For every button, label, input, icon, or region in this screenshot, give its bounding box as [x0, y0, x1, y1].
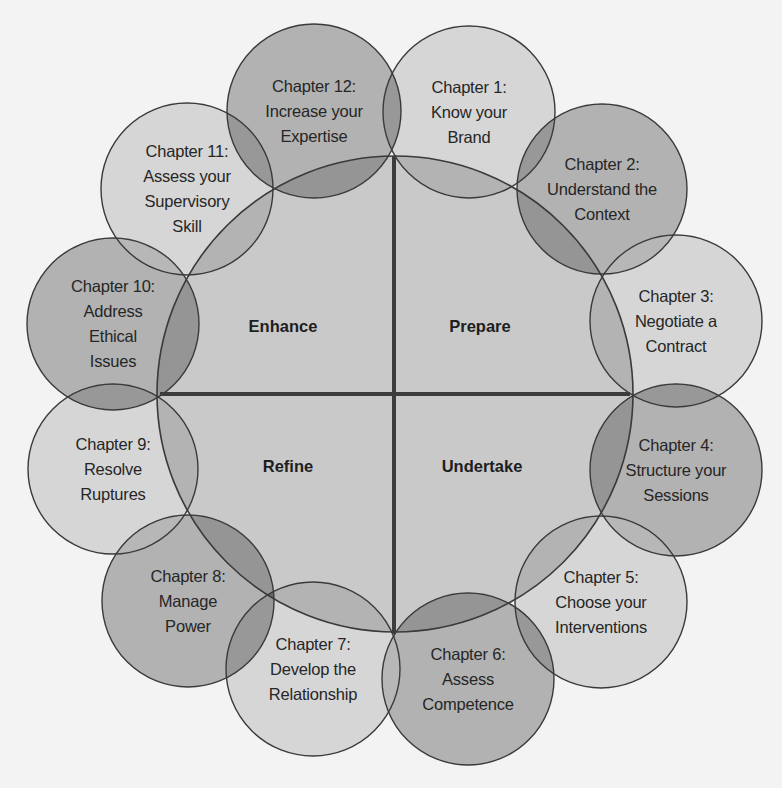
chapter-subtitle-line: Interventions: [555, 615, 647, 640]
chapter-subtitle-line: Develop the: [269, 657, 357, 682]
chapter-subtitle-line: Relationship: [269, 682, 357, 707]
chapter-subtitle-line: Choose your: [555, 590, 647, 615]
chapter-subtitle-line: Structure your: [626, 458, 727, 483]
chapter-label-ch2: Chapter 2:Understand theContext: [547, 152, 657, 227]
chapter-subtitle-line: Know your: [431, 100, 507, 125]
chapter-cycle-diagram: Chapter 1:Know yourBrandChapter 2:Unders…: [0, 0, 782, 788]
chapter-title: Chapter 8:: [150, 564, 225, 589]
chapter-subtitle-line: Contract: [635, 334, 717, 359]
quadrant-label-enhance: Enhance: [249, 317, 318, 336]
chapter-subtitle-line: Assess: [422, 667, 514, 692]
chapter-subtitle-line: Address: [71, 299, 155, 324]
diagram-canvas: [0, 0, 782, 788]
chapter-subtitle-line: Expertise: [265, 124, 362, 149]
chapter-label-ch12: Chapter 12:Increase yourExpertise: [265, 74, 362, 149]
chapter-subtitle-line: Ruptures: [75, 482, 150, 507]
chapter-subtitle-line: Issues: [71, 349, 155, 374]
chapter-subtitle-line: Understand the: [547, 177, 657, 202]
chapter-subtitle-line: Manage: [150, 589, 225, 614]
chapter-subtitle-line: Brand: [431, 125, 507, 150]
chapter-subtitle-line: Context: [547, 202, 657, 227]
chapter-subtitle-line: Supervisory: [143, 189, 231, 214]
quadrant-label-refine: Refine: [263, 457, 313, 476]
chapter-subtitle-line: Power: [150, 614, 225, 639]
chapter-label-ch5: Chapter 5:Choose yourInterventions: [555, 565, 647, 640]
chapter-subtitle-line: Negotiate a: [635, 309, 717, 334]
chapter-title: Chapter 2:: [547, 152, 657, 177]
chapter-title: Chapter 4:: [626, 433, 727, 458]
chapter-label-ch1: Chapter 1:Know yourBrand: [431, 75, 507, 150]
chapter-title: Chapter 5:: [555, 565, 647, 590]
chapter-title: Chapter 3:: [635, 284, 717, 309]
chapter-label-ch4: Chapter 4:Structure yourSessions: [626, 433, 727, 508]
quadrant-label-undertake: Undertake: [442, 457, 523, 476]
chapter-label-ch10: Chapter 10:AddressEthicalIssues: [71, 274, 155, 374]
chapter-label-ch8: Chapter 8:ManagePower: [150, 564, 225, 639]
chapter-subtitle-line: Competence: [422, 692, 514, 717]
chapter-label-ch6: Chapter 6:AssessCompetence: [422, 642, 514, 717]
chapter-subtitle-line: Assess your: [143, 164, 231, 189]
chapter-subtitle-line: Increase your: [265, 99, 362, 124]
chapter-label-ch9: Chapter 9:ResolveRuptures: [75, 432, 150, 507]
chapter-title: Chapter 1:: [431, 75, 507, 100]
chapter-label-ch11: Chapter 11:Assess yourSupervisorySkill: [143, 139, 231, 239]
chapter-label-ch3: Chapter 3:Negotiate aContract: [635, 284, 717, 359]
chapter-title: Chapter 10:: [71, 274, 155, 299]
chapter-title: Chapter 7:: [269, 632, 357, 657]
chapter-title: Chapter 9:: [75, 432, 150, 457]
chapter-title: Chapter 11:: [143, 139, 231, 164]
chapter-subtitle-line: Resolve: [75, 457, 150, 482]
chapter-subtitle-line: Sessions: [626, 483, 727, 508]
quadrant-label-prepare: Prepare: [449, 317, 510, 336]
chapter-subtitle-line: Ethical: [71, 324, 155, 349]
chapter-label-ch7: Chapter 7:Develop theRelationship: [269, 632, 357, 707]
chapter-title: Chapter 12:: [265, 74, 362, 99]
chapter-title: Chapter 6:: [422, 642, 514, 667]
chapter-subtitle-line: Skill: [143, 214, 231, 239]
